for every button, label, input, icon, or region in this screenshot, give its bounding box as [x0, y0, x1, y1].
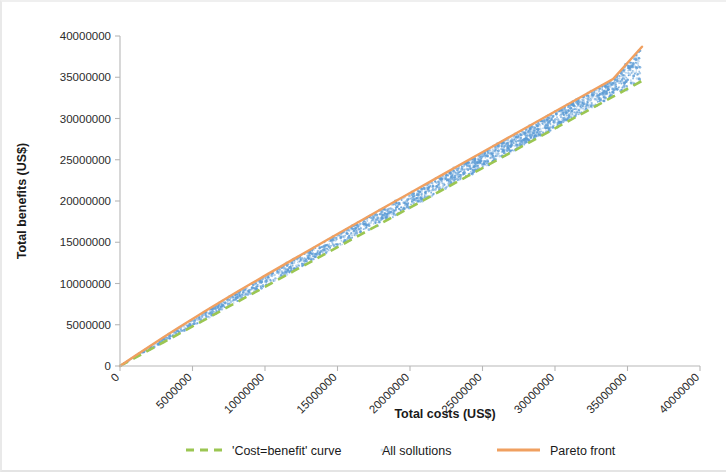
scatter-point	[469, 166, 471, 168]
scatter-point	[557, 119, 560, 122]
scatter-point	[598, 90, 600, 92]
scatter-point	[453, 176, 456, 179]
scatter-point	[592, 93, 595, 96]
legend-item[interactable]: All sollutions	[380, 444, 451, 458]
scatter-point	[315, 256, 317, 258]
scatter-point	[549, 123, 551, 125]
scatter-point	[324, 247, 326, 249]
scatter-point	[525, 140, 528, 143]
y-tick-label: 30000000	[60, 113, 111, 125]
scatter-point	[507, 148, 509, 150]
scatter-point	[316, 253, 318, 255]
scatter-point	[187, 325, 189, 327]
scatter-chart: 0500000010000000150000002000000025000000…	[0, 0, 726, 472]
legend-item[interactable]: Pareto front	[497, 444, 616, 458]
scatter-point	[310, 252, 312, 254]
scatter-point	[386, 213, 388, 215]
scatter-point	[576, 112, 578, 114]
y-tick-label: 15000000	[60, 236, 111, 248]
scatter-point	[350, 233, 353, 236]
scatter-point	[407, 199, 409, 201]
scatter-point	[534, 126, 536, 128]
scatter-point	[495, 154, 498, 157]
scatter-point	[444, 178, 446, 180]
scatter-point	[490, 156, 493, 159]
scatter-point	[608, 85, 610, 87]
scatter-point	[473, 162, 475, 164]
scatter-point	[572, 104, 575, 107]
scatter-point	[470, 171, 472, 173]
scatter-point	[487, 161, 489, 163]
scatter-point	[292, 265, 294, 267]
scatter-point	[206, 314, 208, 316]
scatter-point	[319, 246, 321, 248]
scatter-point	[336, 243, 339, 246]
scatter-point	[474, 160, 476, 162]
scatter-point	[382, 218, 384, 220]
scatter-point	[538, 124, 541, 127]
legend-label: Pareto front	[550, 444, 616, 458]
scatter-point	[550, 118, 552, 120]
scatter-point	[527, 132, 530, 135]
scatter-point	[408, 202, 410, 204]
scatter-point	[631, 72, 633, 74]
scatter-point	[364, 227, 366, 229]
scatter-point	[234, 297, 237, 300]
scatter-point	[495, 149, 497, 151]
scatter-point	[586, 105, 588, 107]
scatter-point	[420, 194, 422, 196]
scatter-point	[297, 259, 299, 261]
scatter-point	[354, 234, 357, 237]
scatter-point	[520, 133, 522, 135]
scatter-point	[312, 255, 314, 257]
scatter-point	[358, 228, 361, 231]
scatter-point	[400, 207, 402, 209]
x-tick-label: 10000000	[222, 371, 267, 416]
scatter-point	[481, 156, 483, 158]
scatter-point	[623, 74, 625, 76]
scatter-point	[603, 93, 606, 96]
scatter-point	[536, 132, 538, 134]
scatter-point	[627, 72, 629, 74]
scatter-point	[624, 79, 626, 81]
scatter-point	[389, 213, 391, 215]
scatter-point	[265, 277, 267, 279]
scatter-point	[563, 121, 565, 123]
x-axis-title: Total costs (US$)	[394, 407, 495, 421]
scatter-point	[448, 181, 450, 183]
scatter-point	[416, 193, 419, 196]
scatter-point	[613, 89, 616, 92]
scatter-point	[636, 73, 639, 76]
scatter-point	[384, 213, 386, 215]
scatter-point	[603, 97, 605, 99]
scatter-point	[505, 149, 507, 151]
scatter-point	[354, 229, 357, 232]
scatter-point	[616, 86, 618, 88]
x-tick-label: 40000000	[657, 371, 702, 416]
scatter-point	[417, 201, 419, 203]
scatter-point	[536, 128, 539, 131]
scatter-point	[284, 267, 286, 269]
legend-item[interactable]: 'Cost=benefit' curve	[186, 444, 341, 458]
scatter-point	[589, 97, 591, 99]
scatter-point	[548, 128, 550, 130]
scatter-point	[629, 74, 631, 76]
scatter-point	[281, 272, 283, 274]
scatter-point	[345, 231, 347, 233]
scatter-point	[542, 127, 544, 129]
scatter-point	[297, 262, 299, 264]
scatter-point	[497, 150, 499, 152]
scatter-point	[636, 67, 638, 69]
scatter-point	[551, 126, 554, 129]
scatter-point	[599, 99, 602, 102]
x-tick-label: 35000000	[584, 371, 629, 416]
scatter-point	[485, 154, 488, 157]
scatter-point	[547, 119, 550, 122]
scatter-point	[572, 113, 574, 115]
scatter-point	[356, 224, 359, 227]
scatter-point	[492, 148, 494, 150]
scatter-point	[472, 168, 474, 170]
scatter-point	[244, 289, 247, 292]
scatter-point	[170, 335, 172, 337]
chart-figure: 0500000010000000150000002000000025000000…	[0, 0, 726, 472]
